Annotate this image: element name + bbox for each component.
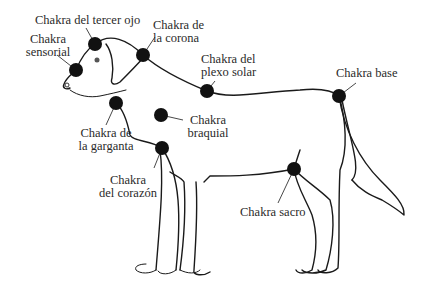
label-line2: braquial (180, 127, 236, 140)
label-braquial: Chakra braquial (180, 114, 236, 140)
chakra-dot-corona (136, 48, 150, 62)
chakra-dot-base (332, 89, 346, 103)
label-plexo-solar: Chakra del plexo solar (201, 53, 256, 79)
chakra-dot-garganta (109, 96, 123, 110)
label-corona: Chakra de la corona (153, 19, 204, 45)
label-line2: la garganta (72, 140, 140, 153)
chakra-dot-braquial (154, 108, 168, 122)
chakra-dot-corazon (155, 141, 169, 155)
label-garganta: Chakra de la garganta (72, 127, 140, 153)
label-tercer-ojo: Chakra del tercer ojo (35, 14, 140, 27)
chakra-dot-tercer-ojo (88, 37, 102, 51)
label-base: Chakra base (336, 67, 397, 80)
label-sacro: Chakra sacro (240, 206, 306, 219)
label-line2: la corona (153, 32, 204, 45)
eye-icon (95, 58, 100, 63)
label-text: Chakra base (336, 66, 397, 80)
chakra-dot-sacro (287, 162, 301, 176)
label-sensorial: Chakra sensorial (20, 33, 76, 59)
label-line2: sensorial (20, 46, 76, 59)
label-text: Chakra del tercer ojo (35, 13, 140, 27)
chakra-dot-sensorial (69, 63, 83, 77)
dog-chakra-diagram: Chakra del tercer ojo Chakra sensorial C… (0, 0, 437, 290)
label-line2: del corazón (92, 187, 164, 200)
label-text: Chakra sacro (240, 205, 306, 219)
chakra-dot-plexo-solar (200, 84, 214, 98)
label-line2: plexo solar (201, 66, 256, 79)
label-corazon: Chakra del corazón (92, 174, 164, 200)
